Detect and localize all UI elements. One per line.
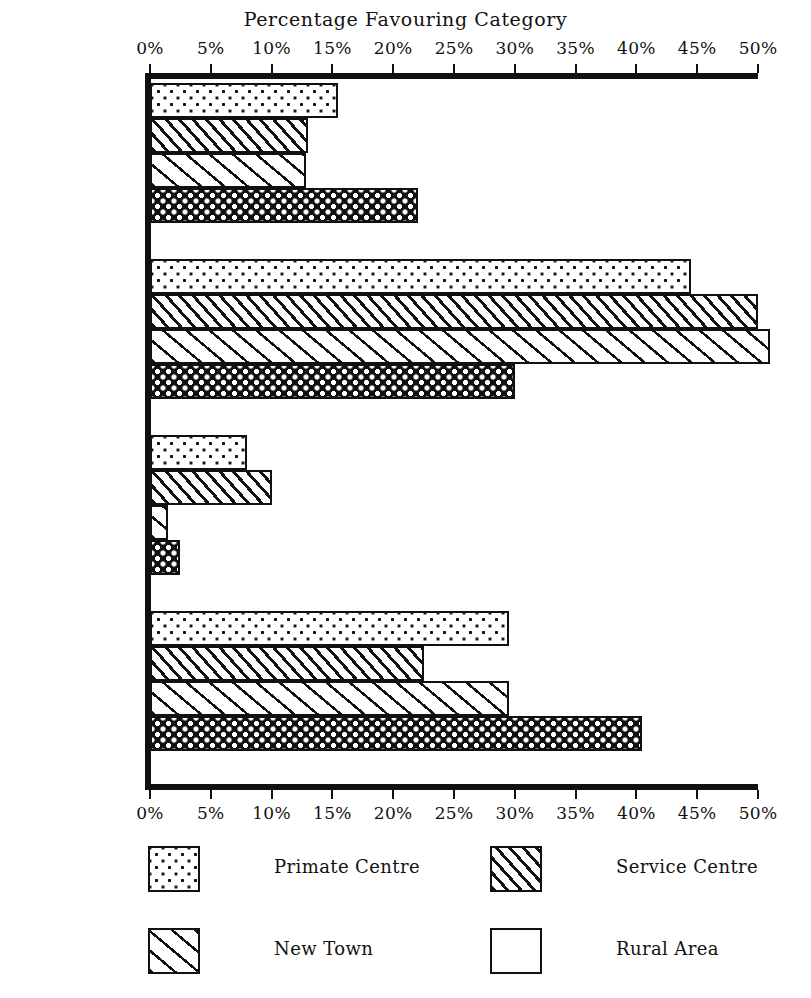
legend-label: New Town <box>274 938 373 959</box>
x-axis-ticks-top <box>150 64 758 73</box>
x-tick-40 <box>635 790 637 799</box>
bar <box>150 83 338 118</box>
x-tick-40 <box>635 64 637 73</box>
x-tick-5 <box>210 64 212 73</box>
x-tick-15 <box>331 790 333 799</box>
x-axis-labels-top: 0%5%10%15%20%25%30%35%40%45%50% <box>110 38 798 60</box>
x-tick-35 <box>575 64 577 73</box>
bar-group: More Rural Settlement <box>150 611 758 751</box>
bar <box>150 681 509 716</box>
bar <box>150 294 758 329</box>
x-tick-30 <box>514 64 516 73</box>
legend-swatch-icon <box>148 928 200 974</box>
x-tick-5 <box>210 790 212 799</box>
legend-swatch-icon <box>490 928 542 974</box>
axis-line-top <box>150 73 758 79</box>
x-tick-10 <box>271 64 273 73</box>
bar <box>150 435 247 470</box>
x-tick-45 <box>696 64 698 73</box>
bar-group: Present Pattern Retained <box>150 83 758 223</box>
x-tick-label-50: 50% <box>718 38 798 58</box>
x-tick-45 <box>696 790 698 799</box>
x-axis-ticks-bottom <box>150 790 758 799</box>
x-tick-20 <box>392 790 394 799</box>
bar <box>150 364 515 399</box>
bar <box>150 646 424 681</box>
x-axis-labels-bottom: 0%5%10%15%20%25%30%35%40%45%50% <box>110 803 798 825</box>
x-tick-30 <box>514 790 516 799</box>
bar <box>150 259 691 294</box>
bar-group: More Large Cities <box>150 435 758 575</box>
bar <box>150 505 168 540</box>
bar <box>150 118 308 153</box>
x-tick-0 <box>149 790 151 799</box>
x-tick-35 <box>575 790 577 799</box>
legend-swatch-icon <box>490 846 542 892</box>
legend-swatch-icon <box>148 846 200 892</box>
legend-label: Rural Area <box>616 938 719 959</box>
x-tick-10 <box>271 790 273 799</box>
x-tick-0 <box>149 64 151 73</box>
bar-group: More Small Towns <box>150 259 758 399</box>
plot-area: 0%5%10%15%20%25%30%35%40%45%50% 0%5%10%1… <box>150 78 758 785</box>
x-tick-25 <box>453 64 455 73</box>
chart-legend: Primate CentreService CentreNew TownRura… <box>0 846 811 986</box>
bar <box>150 329 770 364</box>
x-tick-50 <box>757 790 759 799</box>
bar <box>150 716 642 751</box>
legend-label: Service Centre <box>616 856 758 877</box>
bar <box>150 611 509 646</box>
bar <box>150 470 272 505</box>
x-tick-25 <box>453 790 455 799</box>
bar <box>150 188 418 223</box>
chart-title: Percentage Favouring Category <box>0 8 811 30</box>
bar <box>150 540 180 575</box>
legend-label: Primate Centre <box>274 856 420 877</box>
x-tick-15 <box>331 64 333 73</box>
x-tick-50 <box>757 64 759 73</box>
x-tick-label-50: 50% <box>718 803 798 823</box>
x-tick-20 <box>392 64 394 73</box>
bar <box>150 153 306 188</box>
